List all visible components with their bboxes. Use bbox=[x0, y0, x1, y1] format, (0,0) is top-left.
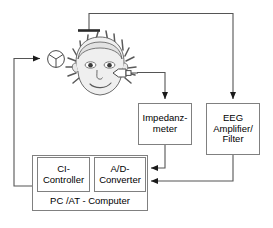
node-ad-converter-label: A/D- Converter bbox=[98, 164, 142, 185]
node-ci-controller[interactable]: CI- Controller bbox=[37, 157, 90, 192]
scalp-electrode-icon bbox=[78, 28, 100, 34]
transmitter-coil-icon bbox=[45, 48, 67, 70]
node-eeg-amplifier[interactable]: EEG Amplifier/ Filter bbox=[206, 103, 260, 155]
node-ci-controller-label: CI- Controller bbox=[42, 164, 85, 185]
diagram-canvas: Impedanz- meter EEG Amplifier/ Filter CI… bbox=[0, 0, 273, 228]
node-pc-computer-label: PC /AT - Computer bbox=[49, 196, 131, 207]
node-ad-converter[interactable]: A/D- Converter bbox=[94, 157, 146, 192]
node-impedance-meter[interactable]: Impedanz- meter bbox=[138, 103, 192, 145]
node-eeg-amplifier-label: EEG Amplifier/ Filter bbox=[212, 113, 254, 145]
node-impedance-meter-label: Impedanz- meter bbox=[142, 113, 189, 134]
wire-impedance-to-ad bbox=[151, 145, 165, 168]
node-pc-computer-label-wrap: PC /AT - Computer bbox=[34, 193, 146, 209]
electrode-plug-icon bbox=[112, 66, 138, 80]
